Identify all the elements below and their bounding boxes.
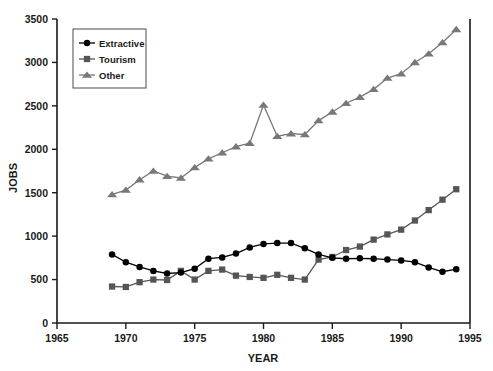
data-point-extractive [205,255,211,261]
data-point-extractive [136,264,142,270]
data-point-tourism [247,274,253,280]
data-point-tourism [233,273,239,279]
data-point-extractive [343,255,349,261]
y-tick-label: 3000 [25,56,49,68]
data-point-tourism [343,247,349,253]
x-tick-label: 1965 [45,332,69,344]
data-point-extractive [384,256,390,262]
chart-legend: ExtractiveTourismOther [73,29,146,88]
series-other [107,26,461,197]
data-point-extractive [123,259,129,265]
data-point-extractive [219,254,225,260]
data-point-other [203,155,213,161]
series-extractive [109,240,460,277]
x-tick-label: 1975 [183,332,207,344]
x-tick-label: 1990 [389,332,413,344]
data-point-other [382,74,392,80]
data-point-extractive [412,259,418,265]
data-point-tourism [274,272,280,278]
data-point-extractive [109,251,115,257]
legend-marker-tourism [84,56,90,62]
y-tick-label: 0 [42,317,48,329]
x-tick-label: 1970 [114,332,138,344]
data-point-tourism [453,186,459,192]
data-point-tourism [109,283,115,289]
data-point-extractive [233,250,239,256]
data-point-extractive [439,269,445,275]
data-point-tourism [412,217,418,223]
data-point-other [162,173,172,179]
data-point-extractive [425,264,431,270]
data-point-tourism [426,207,432,213]
data-point-tourism [192,276,198,282]
x-tick-label: 1985 [321,332,345,344]
data-point-tourism [123,284,129,290]
data-point-tourism [384,231,390,237]
data-point-tourism [439,197,445,203]
data-point-extractive [178,269,184,275]
series-tourism [109,186,459,290]
data-point-extractive [315,251,321,257]
data-point-extractive [246,244,252,250]
data-point-tourism [205,268,211,274]
data-point-extractive [191,265,197,271]
y-axis-title: JOBS [7,163,19,193]
data-point-tourism [136,279,142,285]
x-axis-title: YEAR [248,352,279,364]
data-point-extractive [357,255,363,261]
data-point-tourism [288,275,294,281]
legend-label-tourism: Tourism [99,54,136,65]
data-point-other [148,167,158,173]
data-point-extractive [329,255,335,261]
legend-marker-extractive [84,40,90,46]
data-point-other [451,26,461,32]
x-tick-label: 1995 [458,332,482,344]
y-tick-label: 1000 [25,230,49,242]
data-point-extractive [302,245,308,251]
data-point-other [217,149,227,155]
data-point-extractive [164,270,170,276]
data-series-group [107,26,461,290]
series-line-other [112,29,456,194]
legend-label-other: Other [99,70,125,81]
data-point-extractive [453,266,459,272]
y-tick-label: 500 [30,273,48,285]
data-point-other [107,191,117,197]
data-point-extractive [260,241,266,247]
data-point-tourism [150,276,156,282]
data-point-other [245,140,255,146]
legend-label-extractive: Extractive [99,38,144,49]
y-tick-label: 2500 [25,100,49,112]
series-line-extractive [112,243,456,273]
y-tick-label: 1500 [25,187,49,199]
chart-canvas: 0500100015002000250030003500 19651970197… [0,0,493,371]
jobs-by-sector-line-chart: 0500100015002000250030003500 19651970197… [0,0,493,371]
y-axis-tick-group: 0500100015002000250030003500 [25,13,57,329]
data-point-tourism [219,266,225,272]
y-tick-label: 3500 [25,13,49,25]
x-axis-tick-group: 1965197019751980198519901995 [45,323,482,344]
data-point-extractive [150,268,156,274]
data-point-extractive [370,255,376,261]
data-point-extractive [288,240,294,246]
data-point-tourism [260,275,266,281]
data-point-tourism [398,226,404,232]
data-point-tourism [164,277,170,283]
x-tick-label: 1980 [252,332,276,344]
data-point-extractive [398,257,404,263]
data-point-tourism [302,276,308,282]
data-point-extractive [274,240,280,246]
data-point-tourism [370,236,376,242]
data-point-tourism [357,243,363,249]
data-point-other [341,100,351,106]
y-tick-label: 2000 [25,143,49,155]
data-point-other [258,101,268,107]
